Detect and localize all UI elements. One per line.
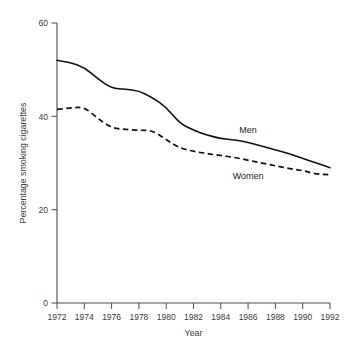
series-annotations: Men Women bbox=[233, 125, 264, 182]
x-tick-label-1974: 1974 bbox=[75, 312, 94, 322]
smoking-prevalence-line-chart: 60 40 20 0 Percentage smoking cigarettes bbox=[0, 0, 353, 354]
y-tick-label-60: 60 bbox=[39, 18, 49, 28]
x-tick-label-1988: 1988 bbox=[266, 312, 285, 322]
x-axis-group: 1972 1974 1976 1978 1980 1982 1984 1986 … bbox=[48, 303, 340, 338]
series-label-women: Women bbox=[233, 171, 264, 181]
x-tick-label-1980: 1980 bbox=[157, 312, 176, 322]
chart-canvas: 60 40 20 0 Percentage smoking cigarettes bbox=[0, 0, 353, 354]
y-tick-marks bbox=[52, 23, 58, 303]
x-tick-label-1982: 1982 bbox=[184, 312, 203, 322]
y-axis-group: 60 40 20 0 Percentage smoking cigarettes bbox=[18, 18, 57, 308]
x-axis-title: Year bbox=[185, 328, 203, 338]
x-tick-label-1992: 1992 bbox=[321, 312, 340, 322]
series-line-women bbox=[57, 107, 330, 174]
x-tick-label-1978: 1978 bbox=[129, 312, 148, 322]
y-tick-label-0: 0 bbox=[43, 298, 48, 308]
x-tick-label-1976: 1976 bbox=[102, 312, 121, 322]
x-tick-label-1984: 1984 bbox=[211, 312, 230, 322]
x-tick-label-1972: 1972 bbox=[48, 312, 67, 322]
y-tick-label-40: 40 bbox=[39, 112, 49, 122]
x-tick-label-1986: 1986 bbox=[239, 312, 258, 322]
x-tick-label-1990: 1990 bbox=[293, 312, 312, 322]
x-tick-marks bbox=[57, 303, 330, 309]
data-series-group bbox=[57, 60, 330, 174]
y-axis-title: Percentage smoking cigarettes bbox=[18, 102, 28, 223]
y-tick-label-20: 20 bbox=[39, 205, 49, 215]
series-label-men: Men bbox=[239, 125, 257, 135]
